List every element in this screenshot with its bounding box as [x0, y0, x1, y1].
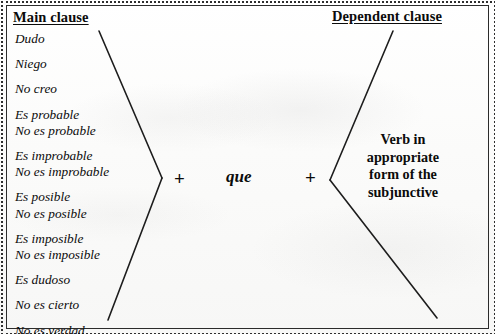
clause-group: Es improbableNo es improbable	[15, 148, 155, 180]
dependent-clause-heading: Dependent clause	[332, 8, 442, 25]
plus-sign-left: +	[174, 169, 185, 188]
clause-line: Niego	[15, 56, 155, 72]
clause-line: Es dudoso	[15, 272, 155, 288]
clause-group: No es cierto	[15, 297, 155, 313]
clause-line: No es probable	[15, 123, 155, 139]
clause-group: No es verdad	[15, 323, 155, 334]
connector-word-que: que	[226, 168, 252, 185]
clause-line: Es imposible	[15, 231, 155, 247]
clause-group: Es probableNo es probable	[15, 107, 155, 139]
main-clause-heading: Main clause	[13, 9, 89, 26]
dependent-clause-line: form of the	[338, 166, 468, 184]
clause-line: Es improbable	[15, 148, 155, 164]
clause-group: Es dudoso	[15, 272, 155, 288]
main-clause-list: DudoNiegoNo creoEs probableNo es probabl…	[15, 31, 155, 334]
clause-group: Es posibleNo es posible	[15, 189, 155, 221]
clause-line: No creo	[15, 81, 155, 97]
dependent-clause-line: Verb in	[338, 131, 468, 149]
dependent-clause-line: subjunctive	[338, 184, 468, 202]
plus-sign-right: +	[305, 168, 316, 187]
clause-group: Es imposibleNo es imposible	[15, 231, 155, 263]
clause-line: Dudo	[15, 31, 155, 47]
clause-group: Niego	[15, 56, 155, 72]
clause-line: No es verdad	[15, 323, 155, 334]
dependent-clause-line: appropriate	[338, 149, 468, 167]
clause-line: No es cierto	[15, 297, 155, 313]
clause-line: No es imposible	[15, 247, 155, 263]
diagram-page: Main clause Dependent clause DudoNiegoNo…	[0, 0, 495, 334]
clause-group: No creo	[15, 81, 155, 97]
dependent-clause-description: Verb inappropriateform of thesubjunctive	[338, 131, 468, 201]
clause-line: Es probable	[15, 107, 155, 123]
clause-line: No es improbable	[15, 164, 155, 180]
clause-group: Dudo	[15, 31, 155, 47]
clause-line: No es posible	[15, 206, 155, 222]
clause-line: Es posible	[15, 189, 155, 205]
